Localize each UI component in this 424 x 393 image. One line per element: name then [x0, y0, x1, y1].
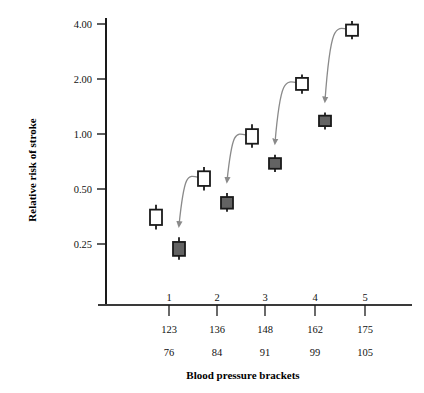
y-tick-label: 2.00 [74, 74, 92, 85]
open-marker-4 [296, 74, 308, 93]
y-axis-title: Relative risk of stroke [26, 118, 38, 221]
x-diastolic-value: 99 [310, 347, 321, 358]
open-marker-5 [346, 21, 358, 39]
x-diastolic-value: 84 [212, 347, 223, 358]
annotation-arrow [275, 82, 302, 143]
filled-marker-2 [221, 193, 233, 212]
box [198, 171, 210, 186]
y-tick-label: 4.00 [74, 19, 92, 30]
x-category-label: 4 [312, 292, 318, 303]
box [269, 158, 281, 169]
y-tick-label: 0.50 [74, 184, 92, 195]
y-tick-label: 1.00 [74, 129, 92, 140]
y-tick-label: 0.25 [74, 239, 92, 250]
box [346, 25, 358, 36]
x-tick-group [169, 305, 365, 316]
x-diastolic-value: 105 [357, 347, 373, 358]
x-diastolic-labels: 76849199105 [164, 347, 373, 358]
box [173, 242, 185, 256]
x-category-labels: 12345 [166, 292, 367, 303]
open-marker-2 [198, 167, 210, 191]
x-systolic-value: 136 [209, 324, 225, 335]
box [221, 197, 233, 209]
x-systolic-labels: 123136148162175 [161, 324, 373, 335]
box [150, 210, 162, 225]
open-marker-1 [150, 205, 162, 230]
box [319, 116, 331, 126]
y-axis: 0.250.501.002.004.00 [74, 18, 106, 306]
annotation-arrow [325, 28, 352, 100]
x-category-label: 1 [166, 292, 171, 303]
x-axis [98, 305, 412, 316]
filled-marker-3 [269, 155, 281, 172]
y-tick-group: 0.250.501.002.004.00 [74, 19, 106, 250]
x-systolic-value: 123 [161, 324, 177, 335]
x-category-label: 2 [214, 292, 219, 303]
relative-risk-of-stroke-chart: 0.250.501.002.004.00 12345 1231361481621… [0, 0, 424, 393]
x-diastolic-value: 91 [260, 347, 271, 358]
box [296, 78, 308, 90]
chart-canvas: 0.250.501.002.004.00 12345 1231361481621… [0, 0, 424, 393]
x-axis-title: Blood pressure brackets [186, 369, 300, 381]
open-marker-3 [246, 124, 258, 148]
x-systolic-value: 175 [357, 324, 373, 335]
x-systolic-value: 148 [257, 324, 273, 335]
x-diastolic-value: 76 [164, 347, 175, 358]
x-systolic-value: 162 [307, 324, 323, 335]
box [246, 129, 258, 144]
data-series-markers [150, 21, 358, 260]
filled-marker-4 [319, 113, 331, 130]
x-category-label: 3 [262, 292, 267, 303]
filled-marker-1 [173, 237, 185, 259]
x-category-label: 5 [362, 292, 367, 303]
